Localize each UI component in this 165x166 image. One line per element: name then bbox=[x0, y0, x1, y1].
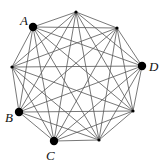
vertex-label-d: D bbox=[148, 59, 159, 74]
edge-v0-v1 bbox=[76, 12, 117, 28]
edge-v3-v4 bbox=[99, 111, 133, 140]
vertex-c bbox=[50, 137, 58, 145]
edge-v0-v2 bbox=[76, 12, 142, 66]
edge-v3-v8 bbox=[33, 27, 133, 111]
edge-v5-v8 bbox=[33, 27, 54, 141]
edge-v2-v7 bbox=[12, 66, 142, 67]
vertex-v1 bbox=[115, 26, 118, 29]
vertex-b bbox=[15, 108, 23, 116]
edge-v1-v8 bbox=[33, 27, 117, 28]
vertex-v0 bbox=[74, 10, 77, 13]
edge-v4-v5 bbox=[54, 140, 99, 141]
vertex-v7 bbox=[10, 65, 13, 68]
complete-graph-diagram: DCBA bbox=[0, 0, 165, 166]
edge-v3-v5 bbox=[54, 111, 133, 141]
vertex-v3 bbox=[131, 109, 134, 112]
vertex-d bbox=[138, 62, 146, 70]
edge-v0-v8 bbox=[33, 12, 76, 27]
edge-v5-v7 bbox=[12, 67, 54, 141]
edge-v3-v6 bbox=[19, 111, 133, 112]
vertex-label-c: C bbox=[46, 148, 55, 163]
edge-v5-v6 bbox=[19, 112, 54, 141]
vertex-label-b: B bbox=[5, 110, 13, 125]
graph-edges bbox=[12, 12, 142, 141]
edge-v2-v8 bbox=[33, 27, 142, 66]
vertex-label-a: A bbox=[19, 13, 28, 28]
vertex-v4 bbox=[97, 138, 100, 141]
edge-v4-v6 bbox=[19, 112, 99, 140]
edge-v4-v7 bbox=[12, 67, 99, 140]
edge-v2-v4 bbox=[99, 66, 142, 140]
vertex-a bbox=[29, 23, 37, 31]
edge-v2-v6 bbox=[19, 66, 142, 112]
